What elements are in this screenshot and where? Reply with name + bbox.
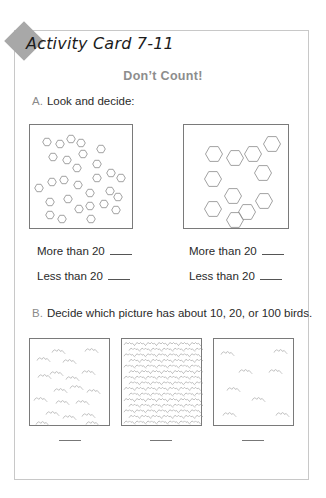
less-than-label: Less than 20 xyxy=(37,270,103,282)
answer-blank[interactable] xyxy=(110,253,132,255)
answer-blank-3[interactable] xyxy=(242,440,264,441)
birds-picture-1 xyxy=(29,338,110,426)
birds-picture-3 xyxy=(213,338,294,426)
section-a-heading: A.Look and decide: xyxy=(32,95,134,107)
more-than-label: More than 20 xyxy=(37,245,105,257)
answer-blank[interactable] xyxy=(262,253,284,255)
answer-blank[interactable] xyxy=(108,278,130,280)
section-b-heading: B.Decide which picture has about 10, 20,… xyxy=(32,307,312,319)
section-b-instruction: Decide which picture has about 10, 20, o… xyxy=(47,307,312,319)
large-hexagons-picture xyxy=(183,124,289,229)
answer-blank-2[interactable] xyxy=(150,440,172,441)
answer-blank[interactable] xyxy=(260,278,282,280)
birds-icon xyxy=(214,339,295,427)
section-a-instruction: Look and decide: xyxy=(47,95,135,107)
birds-icon xyxy=(30,339,111,427)
small-hexagons-icon xyxy=(30,125,134,230)
question-less-than-20-left: Less than 20 xyxy=(37,270,130,282)
small-hexagons-picture xyxy=(29,124,133,229)
more-than-label: More than 20 xyxy=(189,245,257,257)
birds-icon xyxy=(122,339,203,427)
question-more-than-20-right: More than 20 xyxy=(189,245,284,257)
section-a-letter: A. xyxy=(32,95,43,107)
birds-picture-2 xyxy=(121,338,202,426)
question-more-than-20-left: More than 20 xyxy=(37,245,132,257)
large-hexagons-icon xyxy=(184,125,290,230)
page-title: Activity Card 7-11 xyxy=(26,34,174,53)
answer-blank-1[interactable] xyxy=(59,440,81,441)
less-than-label: Less than 20 xyxy=(189,270,255,282)
question-less-than-20-right: Less than 20 xyxy=(189,270,282,282)
section-b-letter: B. xyxy=(32,307,43,319)
activity-subtitle: Don’t Count! xyxy=(0,69,326,83)
